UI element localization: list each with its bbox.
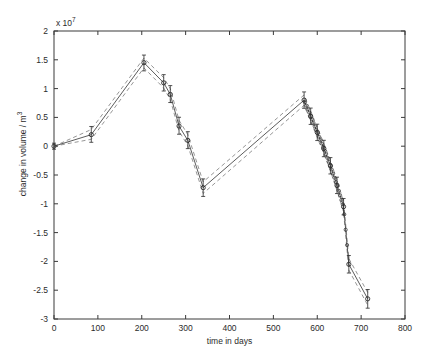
y-tick-label: 1 <box>12 85 48 94</box>
y-axis-exponent: x 107 <box>56 16 76 28</box>
y-tick-label: -3 <box>12 315 48 324</box>
y-tick-label: 0 <box>12 142 48 151</box>
exponent-mantissa: x 10 <box>56 18 72 28</box>
y-tick-label: -2.5 <box>12 286 48 295</box>
error-bars <box>52 55 370 308</box>
y-tick-marks <box>54 31 405 319</box>
confidence-band-lines <box>54 58 368 305</box>
y-tick-label: -0.5 <box>12 171 48 180</box>
band-path <box>54 58 368 292</box>
x-tick-label: 700 <box>341 324 381 333</box>
band-path <box>54 68 368 305</box>
x-tick-label: 0 <box>34 324 74 333</box>
x-tick-label: 500 <box>253 324 293 333</box>
volume-change-chart <box>0 0 429 354</box>
x-tick-label: 300 <box>166 324 206 333</box>
x-tick-label: 200 <box>122 324 162 333</box>
mean-path <box>54 63 368 299</box>
x-tick-label: 800 <box>385 324 425 333</box>
y-axis-label-text: change in volume / m <box>18 115 28 196</box>
x-tick-label: 100 <box>78 324 118 333</box>
y-tick-label: -1 <box>12 200 48 209</box>
y-tick-label: -2 <box>12 257 48 266</box>
exponent-power: 7 <box>72 16 76 23</box>
x-axis-label: time in days <box>54 336 405 346</box>
x-tick-label: 600 <box>297 324 337 333</box>
y-tick-label: -1.5 <box>12 229 48 238</box>
x-tick-marks <box>54 31 405 319</box>
x-tick-label: 400 <box>210 324 250 333</box>
mean-series-line <box>54 63 368 299</box>
y-tick-label: 1.5 <box>12 56 48 65</box>
y-tick-label: 0.5 <box>12 113 48 122</box>
plot-frame <box>54 31 405 319</box>
y-tick-label: 2 <box>12 27 48 36</box>
